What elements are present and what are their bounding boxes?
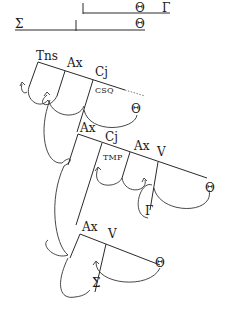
level3-ax-label: Ax [82,221,97,233]
level1-csq-label: CSQ [95,87,114,95]
loop-level2-to-level3 [55,166,68,255]
level1-theta-label: Θ [131,103,141,115]
level1-arc-tns [28,87,48,104]
level1-hook-left [21,84,27,93]
level2-tmp-label: TMP [103,154,123,162]
level2-theta-label: Θ [205,182,215,194]
syntax-tree-diagram: Θ Γ Σ Θ Tns Ax Cj CSQ Θ Ax Cj TMP Ax V Θ… [0,0,226,316]
level2-arc-2 [122,178,145,190]
loop-level1-to-level2 [44,100,62,163]
level2-v-branch [150,162,158,210]
level2-ax-label: Ax [80,122,95,134]
level2-arc-1 [97,168,122,185]
level1-ax-label: Ax [67,57,82,69]
level1-tns-label: Tns [36,50,58,62]
top-row2-sigma: Σ [15,18,23,30]
top-row1-gamma: Γ [162,2,170,14]
level3-spine [80,234,160,265]
level3-sigma-label: Σ [92,277,100,289]
level2-gamma-label: Γ [145,205,153,217]
level1-ax-branch [57,71,65,96]
level2-ax-branch [68,134,78,165]
level3-theta-label: Θ [155,257,165,269]
level2-ax2-branch [122,152,130,178]
top-row2-theta: Θ [135,18,145,30]
level1-arc-cj [48,100,84,115]
level1-dotted-extension [125,90,145,96]
top-row1-theta: Θ [135,2,145,14]
level2-v-label: V [157,146,166,158]
level2-cj-label: Cj [105,131,118,143]
loop-level3-back [46,240,68,256]
level3-ax-branch [70,234,80,258]
level1-arrowhead-left [20,82,25,86]
level2-arc-theta [154,188,209,209]
level1-cj-label: Cj [95,66,108,78]
level3-sigma-loop [61,258,90,297]
level3-arc-theta [96,262,160,282]
level2-cj-branch [76,143,102,225]
level2-ax2-label: Ax [134,140,149,152]
level1-tns-branch [29,62,38,87]
level3-v-label: V [108,228,117,240]
level2-arrowhead-2 [142,178,147,182]
